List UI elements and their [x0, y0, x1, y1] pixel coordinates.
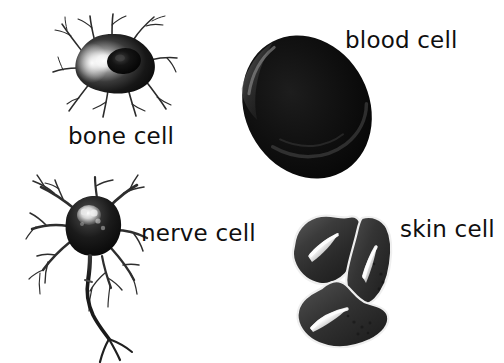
- skin-cell-figure: [282, 204, 402, 356]
- nerve-cell-organelle: [90, 209, 97, 216]
- nerve-cell-axon: [85, 256, 132, 362]
- nerve-cell-organelle: [81, 209, 87, 215]
- bone-cell-label: bone cell: [68, 125, 174, 148]
- bone-cell-highlight: [75, 43, 109, 83]
- bone-cell-figure: [40, 8, 190, 123]
- skin-cell-label: skin cell: [400, 218, 495, 241]
- blood-cell-label: blood cell: [345, 29, 458, 52]
- nerve-cell-soma: [66, 196, 122, 256]
- nerve-cell-organelle: [80, 222, 84, 226]
- diagram-canvas: bone cell: [0, 0, 504, 363]
- nerve-cell-label: nerve cell: [141, 222, 256, 245]
- nerve-cell-figure: [10, 168, 180, 363]
- nerve-cell-organelle: [101, 226, 105, 230]
- bone-cell-nucleolus: [115, 55, 125, 62]
- nerve-cell-organelle: [95, 218, 100, 223]
